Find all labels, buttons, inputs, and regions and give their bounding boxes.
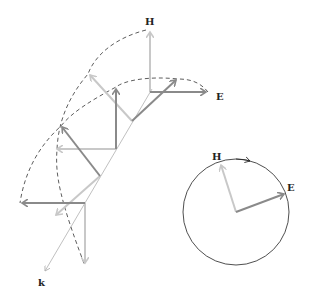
label-E-circle: E [287, 182, 295, 193]
circle-E-vector [236, 194, 284, 212]
E-vector-4 [62, 127, 100, 176]
label-H-wave: H [145, 16, 154, 27]
em-wave-diagram: H E k H E [0, 0, 310, 300]
label-k-axis: k [38, 277, 46, 288]
E-vector-2 [132, 80, 176, 121]
dashed-envelope-E-tips [20, 78, 208, 203]
label-E-wave: E [216, 91, 224, 102]
label-H-circle: H [212, 151, 221, 162]
circle-H-vector [221, 165, 236, 212]
H-vector-4 [56, 176, 100, 215]
